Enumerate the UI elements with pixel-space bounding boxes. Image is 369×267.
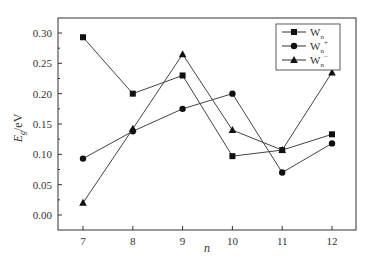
x-tick-label: 10 [227, 235, 239, 247]
legend-box [276, 24, 340, 70]
series-Wn- [79, 50, 336, 206]
data-point-circle-marker [279, 169, 285, 175]
legend-square-marker [291, 29, 297, 35]
series-Wn+ [80, 90, 335, 175]
y-tick-label: 0.15 [33, 118, 53, 130]
x-tick-label: 11 [277, 235, 288, 247]
x-tick-label: 9 [180, 235, 186, 247]
data-point-square-marker [229, 153, 235, 159]
y-axis-title: Eg/eV [11, 113, 27, 143]
data-point-square-marker [80, 34, 86, 40]
series-line [83, 54, 332, 203]
x-tick-label: 12 [327, 235, 338, 247]
data-point-circle-marker [80, 155, 86, 161]
data-point-circle-marker [229, 90, 235, 96]
y-tick-label: 0.30 [33, 27, 53, 39]
data-point-circle-marker [179, 106, 185, 112]
data-point-triangle-marker [79, 199, 87, 206]
y-tick-label: 0.05 [33, 179, 53, 191]
x-tick-label: 8 [130, 235, 136, 247]
data-point-triangle-marker [229, 126, 237, 133]
y-tick-label: 0.20 [33, 88, 53, 100]
y-tick-label: 0.25 [33, 57, 53, 69]
y-tick-label: 0.10 [33, 148, 53, 160]
legend-circle-marker [291, 43, 297, 49]
legend: WnWn+Wn− [276, 24, 340, 70]
data-point-triangle-marker [179, 50, 187, 57]
data-point-circle-marker [329, 140, 335, 146]
data-point-square-marker [180, 72, 186, 78]
x-tick-label: 7 [80, 235, 86, 247]
series-line [83, 94, 332, 173]
line-chart: 0.000.050.100.150.200.250.30 789101112 n… [0, 0, 369, 267]
data-point-square-marker [329, 131, 335, 137]
data-point-square-marker [130, 91, 136, 97]
x-axis-title: n [204, 241, 210, 255]
y-tick-label: 0.00 [33, 209, 53, 221]
data-point-triangle-marker [129, 125, 137, 132]
